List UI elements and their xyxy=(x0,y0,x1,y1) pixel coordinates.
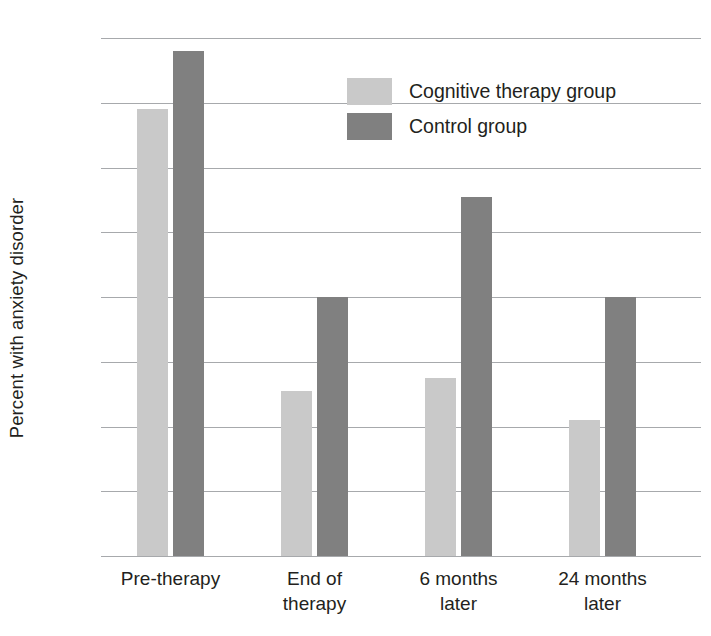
bar-group xyxy=(281,38,348,556)
legend-label: Control group xyxy=(409,115,527,138)
x-axis-label-line: Pre-therapy xyxy=(96,566,246,591)
bar xyxy=(569,420,600,556)
x-axis-label-line: later xyxy=(528,591,678,616)
legend: Cognitive therapy groupControl group xyxy=(347,74,657,144)
bar-chart: Percent with anxiety disorder 8070605040… xyxy=(0,0,711,636)
bar xyxy=(317,297,348,556)
bar xyxy=(605,297,636,556)
legend-item[interactable]: Cognitive therapy group xyxy=(347,74,657,109)
y-axis-title: Percent with anxiety disorder xyxy=(0,0,34,636)
legend-label: Cognitive therapy group xyxy=(409,80,616,103)
x-axis-label-line: 24 months xyxy=(528,566,678,591)
bar xyxy=(173,51,204,556)
gridline xyxy=(101,556,701,557)
legend-item[interactable]: Control group xyxy=(347,109,657,144)
x-axis-label: 6 monthslater xyxy=(384,566,534,617)
bar xyxy=(425,378,456,556)
x-axis-labels: Pre-therapyEnd oftherapy6 monthslater24 … xyxy=(101,566,701,636)
legend-swatch-icon xyxy=(347,78,392,105)
x-axis-label: End oftherapy xyxy=(240,566,390,617)
bar xyxy=(137,109,168,556)
x-axis-label-line: therapy xyxy=(240,591,390,616)
x-axis-label-line: 6 months xyxy=(384,566,534,591)
x-axis-label-line: End of xyxy=(240,566,390,591)
bar xyxy=(461,197,492,556)
x-axis-label: Pre-therapy xyxy=(96,566,246,591)
x-axis-label-line: later xyxy=(384,591,534,616)
bar-group xyxy=(137,38,204,556)
bar xyxy=(281,391,312,556)
legend-swatch-icon xyxy=(347,113,392,140)
x-axis-label: 24 monthslater xyxy=(528,566,678,617)
